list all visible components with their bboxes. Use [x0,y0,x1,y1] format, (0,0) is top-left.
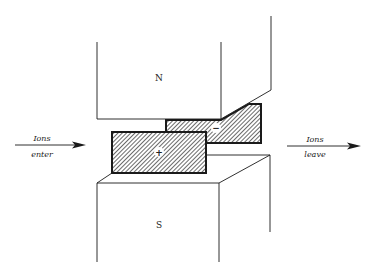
ions-leave-line2: leave [304,150,326,159]
negative-electrode-label: − [212,123,220,133]
positive-electrode-label: + [155,148,163,158]
ions-leave-arrow [287,143,361,150]
ions-enter-line2: enter [31,150,54,159]
ions-enter-line1: Ions [32,134,50,143]
ions-leave-line1: Ions [305,135,323,144]
south-pole-label: S [156,220,162,230]
north-magnet [97,16,271,119]
north-pole-label: N [155,73,163,83]
diagram-canvas: N − + S Ions enter Ions leave [0,0,376,272]
